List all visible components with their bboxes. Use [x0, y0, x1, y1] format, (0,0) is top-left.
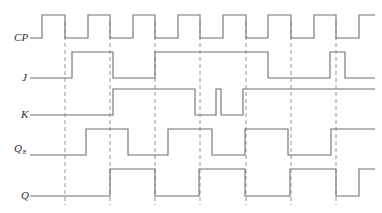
signal-label-q: Q [21, 190, 29, 201]
signal-label-k-text: K [21, 108, 29, 120]
signal-label-q-e-subscript: E [22, 147, 27, 155]
signal-label-j: J [22, 72, 27, 83]
signal-label-q-text: Q [21, 189, 29, 201]
signal-label-cp: CP [14, 32, 28, 43]
waveform-canvas [0, 0, 382, 213]
trace-k [30, 89, 375, 115]
trace-cp [30, 15, 375, 38]
signal-label-j-text: J [22, 71, 27, 83]
trace-qe [30, 129, 375, 155]
trace-j [30, 52, 375, 78]
signal-traces [30, 15, 375, 196]
signal-label-k: K [21, 109, 29, 120]
timing-diagram-figure: CP J K QE Q [0, 0, 382, 213]
dashed-gridlines [65, 22, 336, 205]
trace-q [30, 169, 375, 196]
signal-label-cp-text: CP [14, 31, 28, 43]
signal-label-q-e: QE [14, 143, 27, 156]
signal-label-q-e-text: Q [14, 142, 22, 154]
